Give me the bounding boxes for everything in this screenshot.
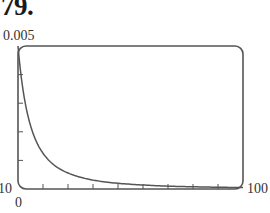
chart-plot (0, 0, 270, 213)
data-curve (18, 46, 243, 188)
plot-frame (18, 46, 243, 189)
